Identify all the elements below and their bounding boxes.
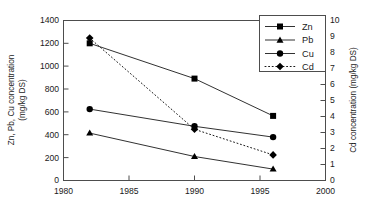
y-axis-title-line2: (mg/kg DS) — [18, 79, 27, 121]
y2-tick-label: 3 — [330, 127, 335, 137]
data-point-cd-1996 — [269, 151, 277, 159]
legend-marker-square-icon — [277, 24, 283, 30]
y-tick-label: 1200 — [40, 38, 59, 48]
y-axis-left — [64, 21, 69, 181]
y2-tick-label: 5 — [330, 95, 335, 105]
data-point-cu-1996 — [270, 134, 276, 140]
y2-tick-label: 9 — [330, 31, 335, 41]
y-axis-right-tick-labels: 0 1 2 3 4 5 6 7 8 9 10 — [330, 15, 340, 185]
legend-label-cu: Cu — [302, 49, 314, 59]
x-tick-label: 1990 — [185, 186, 204, 196]
y-tick-label: 1400 — [40, 15, 59, 25]
y2-tick-label: 6 — [330, 79, 335, 89]
y-axis-title-line1: Zn, Pb, Cu concentration — [7, 54, 16, 145]
x-tick-label: 1995 — [250, 186, 269, 196]
y2-tick-label: 7 — [330, 63, 335, 73]
x-tick-label: 2000 — [316, 186, 335, 196]
y-tick-label: 0 — [54, 175, 59, 185]
series-line-zn — [90, 43, 273, 116]
legend-label-pb: Pb — [302, 35, 313, 45]
y2-tick-label: 0 — [330, 175, 335, 185]
y-tick-label: 200 — [45, 153, 60, 163]
x-tick-label: 1980 — [54, 186, 73, 196]
y2-tick-label: 4 — [330, 111, 335, 121]
chart-legend: Zn Pb Cu Cd — [260, 16, 326, 72]
x-axis — [64, 176, 326, 181]
chart-figure: 0 200 400 600 800 1000 1200 1400 0 1 — [0, 0, 372, 214]
y2-axis-title: Cd concentration (mg/kg DS) — [349, 47, 358, 153]
legend-label-zn: Zn — [302, 22, 313, 32]
series-line-pb — [90, 133, 273, 169]
legend-label-cd: Cd — [302, 62, 314, 72]
data-point-pb-1982 — [86, 130, 93, 136]
data-point-zn-1996 — [270, 113, 276, 119]
y-tick-label: 600 — [45, 107, 60, 117]
series-markers-cd — [86, 34, 277, 158]
series-line-cd — [90, 38, 273, 155]
series-markers-cu — [87, 106, 277, 140]
y-tick-label: 800 — [45, 84, 60, 94]
y-tick-label: 400 — [45, 130, 60, 140]
data-point-cu-1982 — [87, 106, 93, 112]
y-axis-left-tick-labels: 0 200 400 600 800 1000 1200 1400 — [40, 15, 59, 185]
y2-tick-label: 10 — [330, 15, 340, 25]
series-line-cu — [90, 109, 273, 137]
y2-tick-label: 1 — [330, 159, 335, 169]
y2-tick-label: 8 — [330, 47, 335, 57]
y-tick-label: 1000 — [40, 61, 59, 71]
data-point-zn-1990 — [192, 76, 198, 82]
legend-marker-circle-icon — [277, 50, 283, 56]
x-tick-label: 1985 — [119, 186, 138, 196]
metal-concentration-line-chart: 0 200 400 600 800 1000 1200 1400 0 1 — [0, 0, 372, 214]
x-axis-tick-labels: 1980 1985 1990 1995 2000 — [54, 186, 335, 196]
y2-tick-label: 2 — [330, 143, 335, 153]
